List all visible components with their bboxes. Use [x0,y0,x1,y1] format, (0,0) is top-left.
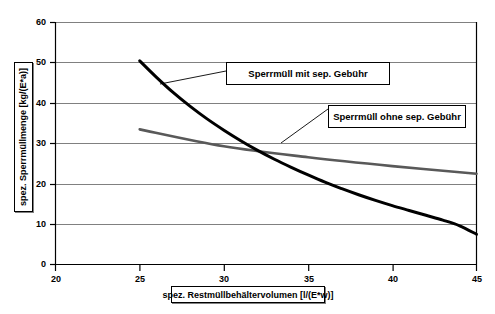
y-axis-title-text: spez. Sperrmüllmenge [kg/(E*a)] [19,68,29,206]
y-tick-label-10: 10 [24,219,46,229]
series-callout-ohne-sep-gebuehr: Sperrmüll ohne sep. Gebühr [328,105,466,128]
y-tick-marks [50,23,55,265]
x-tick-marks [56,265,477,271]
y-axis-title: spez. Sperrmüllmenge [kg/(E*a)] [14,62,33,212]
y-tick-label-60: 60 [24,17,46,27]
x-tick-label-35: 35 [294,274,324,284]
x-tick-label-40: 40 [378,274,408,284]
x-tick-label-20: 20 [41,274,71,284]
x-tick-label-25: 25 [125,274,155,284]
y-tick-label-0: 0 [24,259,46,269]
x-axis-title: spez. Restmüllbehältervolumen [l/(E*w)] [171,286,325,303]
x-tick-label-45: 45 [462,274,492,284]
plot-canvas [0,0,495,314]
series-callout-mit-sep-gebuehr: Sperrmüll mit sep. Gebühr [226,62,390,85]
chart-figure: 60 50 40 30 20 10 0 20 25 30 35 40 45 sp… [0,0,495,314]
x-tick-label-30: 30 [209,274,239,284]
